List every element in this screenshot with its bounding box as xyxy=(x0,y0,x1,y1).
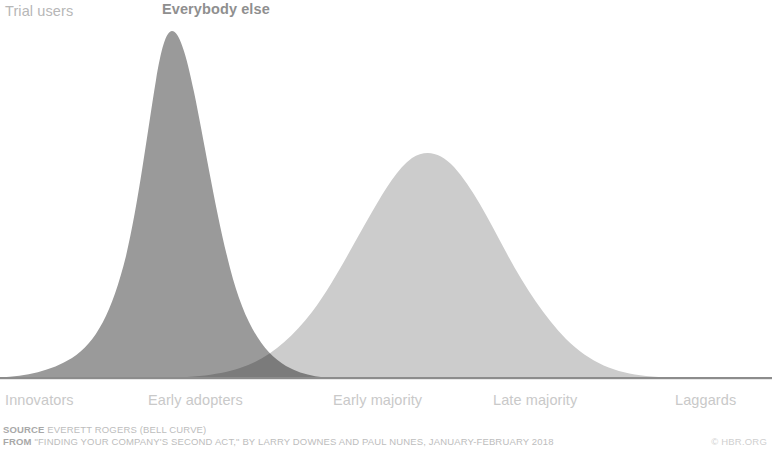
bell-curve-figure: Trial users Everybody else Innovators Ea… xyxy=(0,0,772,460)
x-label-late-majority: Late majority xyxy=(493,392,577,408)
source-label: SOURCE xyxy=(3,424,45,435)
x-label-innovators: Innovators xyxy=(5,392,74,408)
figure-footer: SOURCE EVERETT ROGERS (BELL CURVE) FROM … xyxy=(3,424,769,447)
from-value: "FINDING YOUR COMPANY'S SECOND ACT," BY … xyxy=(34,436,553,447)
source-value: EVERETT ROGERS (BELL CURVE) xyxy=(47,424,206,435)
from-label: FROM xyxy=(3,436,32,447)
x-axis-labels: Innovators Early adopters Early majority… xyxy=(0,392,772,412)
chart-plot-area xyxy=(0,0,772,383)
source-line: SOURCE EVERETT ROGERS (BELL CURVE) xyxy=(3,424,769,436)
x-label-laggards: Laggards xyxy=(675,392,736,408)
x-axis-baseline xyxy=(0,377,772,379)
x-label-early-adopters: Early adopters xyxy=(148,392,243,408)
x-label-early-majority: Early majority xyxy=(333,392,422,408)
hbr-credit: © HBR.ORG xyxy=(711,436,767,447)
from-line: FROM "FINDING YOUR COMPANY'S SECOND ACT,… xyxy=(3,436,769,448)
bell-curves-svg xyxy=(0,0,772,383)
